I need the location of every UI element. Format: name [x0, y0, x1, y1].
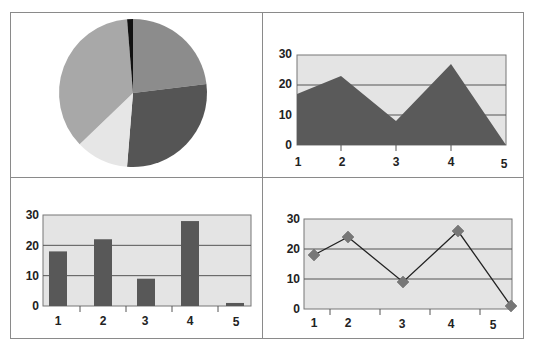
y-tick-label: 20 [287, 242, 301, 256]
y-tick-label: 0 [293, 302, 300, 316]
plot-area [304, 219, 517, 315]
x-tick-label: 5 [490, 318, 497, 332]
y-tick-label: 10 [287, 272, 301, 286]
line-x-axis-labels: 1 2 3 4 5 [311, 316, 497, 332]
x-tick-label: 2 [345, 316, 352, 330]
x-tick-label: 1 [311, 316, 318, 330]
x-tick-label: 3 [399, 317, 406, 331]
line-chart: 0 10 20 30 1 2 3 4 5 [0, 0, 533, 356]
line-y-axis-labels: 0 10 20 30 [287, 212, 301, 316]
y-tick-label: 30 [287, 212, 301, 226]
x-tick-label: 4 [448, 317, 455, 331]
